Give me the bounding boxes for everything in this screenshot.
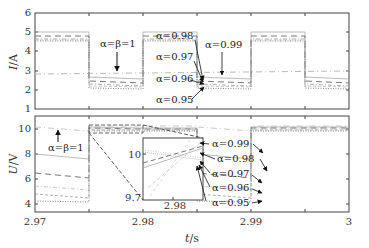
y-tick-1: 1: [25, 103, 31, 114]
inset-frame: [143, 138, 203, 200]
current-ylabel: I/A: [7, 53, 20, 71]
x-axis-label: t/s: [185, 232, 199, 245]
y-tick-8: 8: [25, 148, 31, 159]
x-axis: 2.97 2.98 2.99 3 t/s: [24, 216, 352, 245]
inset-x-tick-2.98: 2.98: [164, 200, 186, 211]
anno-top-0.99: α=0.99: [205, 39, 242, 50]
svg-text:I/A: I/A: [7, 53, 20, 71]
anno-top-0.96: α=0.96: [156, 73, 193, 84]
y-tick-6: 6: [25, 173, 31, 184]
figure: 6 5 4 3 2 1 I/A α=β=1 α=0.98 α=0.97: [0, 0, 369, 248]
anno-top-alpha-beta-1: α=β=1: [100, 38, 136, 49]
y-tick-10: 10: [18, 123, 31, 134]
anno-top-0.98: α=0.98: [156, 30, 193, 41]
svg-text:U/V: U/V: [7, 152, 20, 174]
anno-bottom-alpha-beta-1: α=β=1: [48, 142, 84, 153]
y-tick-4: 4: [25, 198, 31, 209]
y-tick-3: 3: [25, 65, 31, 76]
y-tick-4: 4: [25, 45, 31, 56]
voltage-plot: 10 8 6 4 U/V: [7, 116, 349, 212]
anno-bottom-0.96: α=0.96: [212, 182, 249, 193]
voltage-ylabel: U/V: [7, 152, 20, 174]
inset-y-tick-10: 10: [128, 149, 141, 160]
x-tick-2.97: 2.97: [24, 216, 46, 227]
x-tick-2.98: 2.98: [132, 216, 154, 227]
y-tick-6: 6: [25, 7, 31, 18]
y-tick-5: 5: [25, 26, 31, 37]
anno-bottom-0.99: α=0.99: [212, 138, 249, 149]
inset-y-tick-9.7: 9.7: [125, 192, 141, 203]
x-tick-2.99: 2.99: [240, 216, 262, 227]
anno-top-0.97: α=0.97: [156, 51, 193, 62]
anno-bottom-0.98: α=0.98: [217, 153, 254, 164]
current-plot: 6 5 4 3 2 1 I/A α=β=1 α=0.98 α=0.97: [7, 7, 349, 114]
anno-top-0.95: α=0.95: [156, 94, 193, 105]
y-tick-2: 2: [25, 84, 31, 95]
x-tick-3: 3: [346, 216, 352, 227]
anno-bottom-0.95: α=0.95: [212, 197, 249, 208]
anno-bottom-0.97: α=0.97: [212, 168, 249, 179]
